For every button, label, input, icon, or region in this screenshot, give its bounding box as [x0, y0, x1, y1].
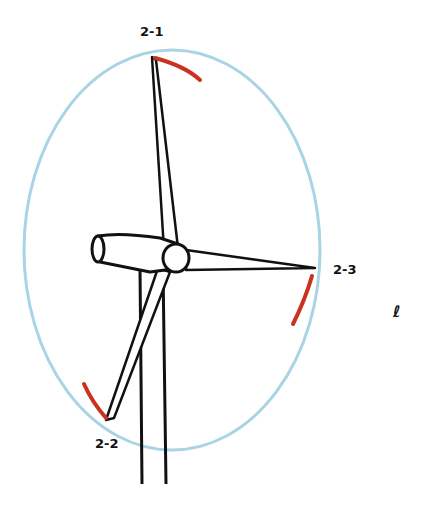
label-2-3: 2-3 [333, 262, 357, 277]
mark-glyph: ℓ [393, 302, 401, 321]
nacelle-end [92, 236, 104, 262]
blade-2-2 [106, 268, 170, 420]
tip-arc-2-3 [293, 276, 312, 324]
label-2-2: 2-2 [95, 436, 119, 451]
blade-2-3 [186, 250, 315, 270]
label-2-1: 2-1 [140, 24, 164, 39]
tip-arc-2-1 [155, 58, 200, 80]
blade-2-1 [152, 57, 178, 250]
turbine-diagram [0, 0, 425, 508]
hub [163, 244, 189, 272]
